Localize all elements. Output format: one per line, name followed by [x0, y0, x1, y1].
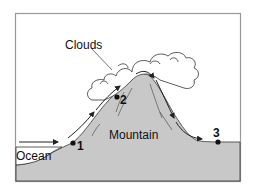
mountain-label: Mountain — [109, 128, 158, 142]
orographic-diagram: Clouds Mountain Ocean 1 2 3 — [0, 0, 254, 194]
point-1-marker — [70, 140, 75, 145]
point-1-label: 1 — [77, 139, 84, 153]
clouds-label: Clouds — [65, 38, 102, 52]
point-2-label: 2 — [120, 93, 127, 107]
point-2-marker — [114, 94, 119, 99]
point-3-marker — [215, 139, 220, 144]
ocean-label: Ocean — [16, 149, 51, 163]
point-3-label: 3 — [213, 126, 220, 140]
